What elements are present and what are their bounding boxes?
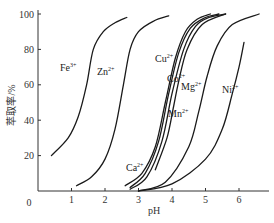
y-tick-label: 60 [24, 79, 34, 90]
extraction-rate-chart: 20406080100 123456 0 pH 萃取率/% Fe3+Zn2+Ca… [0, 0, 274, 223]
origin-label: 0 [27, 197, 32, 208]
series-labels: Fe3+Zn2+Ca2+Cu2+Mn2+Co2+Mg2+Ni2+ [60, 53, 239, 173]
series-label-zn: Zn2+ [97, 66, 115, 77]
x-tick-label: 4 [170, 194, 175, 205]
y-tick-label: 100 [19, 9, 34, 20]
curve-fe [51, 18, 126, 156]
series-curves [51, 14, 259, 191]
y-tick-label: 40 [24, 115, 34, 126]
curve-mg [139, 14, 260, 191]
curve-mn [130, 14, 226, 189]
x-axis-label: pH [148, 205, 160, 216]
x-tick-label: 1 [69, 194, 74, 205]
series-label-mn: Mn2+ [168, 108, 189, 119]
series-label-fe: Fe3+ [60, 62, 77, 73]
series-label-mg: Mg2+ [181, 81, 202, 92]
x-tick-label: 2 [103, 194, 108, 205]
series-label-ca: Ca2+ [126, 162, 144, 173]
x-tick-label: 3 [136, 194, 141, 205]
series-label-cu: Cu2+ [155, 53, 174, 64]
y-tick-label: 80 [24, 44, 34, 55]
y-tick-label: 20 [24, 150, 34, 161]
y-axis-label: 萃取率/% [5, 84, 17, 125]
x-tick-label: 6 [237, 194, 242, 205]
curve-ni [139, 42, 245, 191]
series-label-ni: Ni2+ [222, 84, 239, 95]
x-tick-label: 5 [203, 194, 208, 205]
